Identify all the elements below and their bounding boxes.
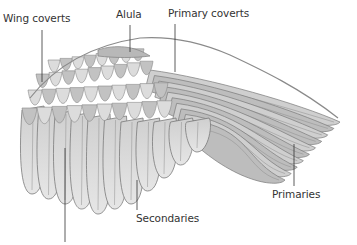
covert-feather <box>140 84 154 99</box>
covert-feather <box>42 89 56 104</box>
coverts-feathers <box>22 47 172 125</box>
covert-feather <box>84 55 96 67</box>
label-wing-coverts: Wing coverts <box>3 12 70 24</box>
covert-feather <box>84 87 98 102</box>
alula-feathers <box>98 47 150 58</box>
covert-feather <box>75 69 88 83</box>
label-primary-coverts: Primary coverts <box>168 7 249 19</box>
label-alula: Alula <box>116 8 142 20</box>
covert-feather <box>127 102 142 119</box>
covert-feather <box>126 84 140 99</box>
covert-feather <box>56 88 70 103</box>
covert-feather <box>49 72 62 86</box>
covert-feather <box>62 71 75 85</box>
wing-diagram: Wing coverts Alula Primary coverts Prima… <box>0 0 357 245</box>
covert-feather <box>88 68 101 82</box>
covert-feather <box>70 88 84 103</box>
covert-feather <box>101 66 114 80</box>
covert-feather <box>72 57 84 69</box>
covert-feather <box>114 64 127 78</box>
wing-illustration <box>0 0 357 245</box>
covert-feather <box>36 74 49 88</box>
covert-feather <box>112 85 126 100</box>
secondaries-feathers <box>20 106 210 214</box>
label-secondaries: Secondaries <box>136 212 199 224</box>
covert-feather <box>127 63 140 77</box>
covert-feather <box>142 102 157 119</box>
label-primaries: Primaries <box>272 188 320 200</box>
covert-feather <box>98 86 112 101</box>
